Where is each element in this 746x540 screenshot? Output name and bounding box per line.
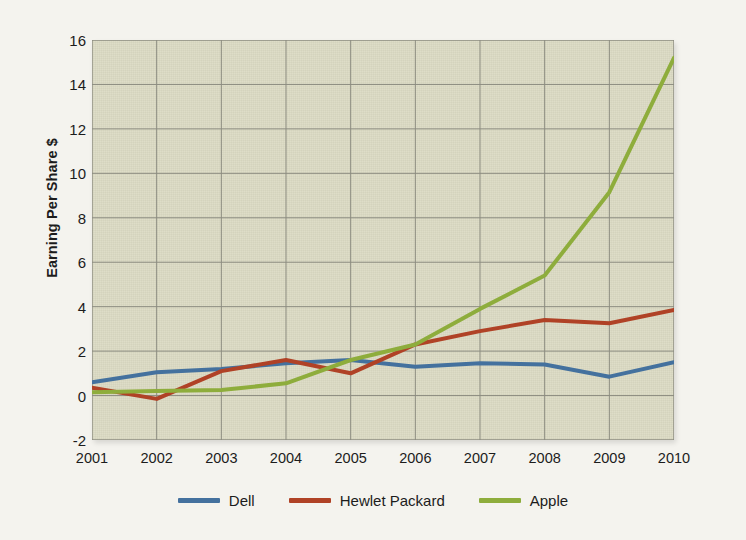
plot-area (92, 40, 674, 440)
series-lines (92, 58, 674, 399)
legend: DellHewlet PackardApple (0, 492, 746, 509)
x-axis-tick-label: 2003 (186, 450, 256, 466)
legend-item-label: Hewlet Packard (340, 492, 445, 509)
x-axis-tick-label: 2001 (57, 450, 127, 466)
x-axis-tick-label: 2010 (639, 450, 709, 466)
series-line-hewlet-packard (92, 310, 674, 399)
x-axis-tick-label: 2008 (510, 450, 580, 466)
legend-item-label: Dell (229, 492, 255, 509)
dell-line-swatch (178, 498, 220, 503)
legend-item[interactable]: Hewlet Packard (289, 492, 445, 509)
gridlines (92, 40, 674, 440)
legend-item[interactable]: Dell (178, 492, 255, 509)
x-axis-tick-label: 2002 (122, 450, 192, 466)
x-axis-tick-label: 2004 (251, 450, 321, 466)
hewlet-packard-line-swatch (289, 498, 331, 503)
series-line-dell (92, 360, 674, 382)
line-chart: Earning Per Share $ 1614121086420-2 2001… (0, 0, 746, 540)
legend-item[interactable]: Apple (479, 492, 568, 509)
plot-svg (92, 40, 674, 440)
legend-item-label: Apple (530, 492, 568, 509)
apple-line-swatch (479, 498, 521, 503)
x-axis-tick-label: 2009 (574, 450, 644, 466)
x-axis-tick-label: 2007 (445, 450, 515, 466)
series-line-apple (92, 58, 674, 392)
x-axis-tick-label: 2005 (316, 450, 386, 466)
x-axis-tick-label: 2006 (380, 450, 450, 466)
